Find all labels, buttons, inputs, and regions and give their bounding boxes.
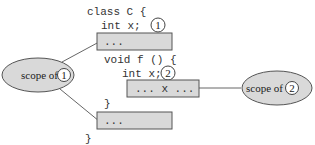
scope-diagram: class C { int x; 1 ... void f () { int x… [0,0,315,145]
marker-1: 1 [151,18,165,32]
code-int-x-2: int x; [122,68,162,80]
scope-marker-2: 2 [289,82,295,94]
scope-label-2: scope of [246,82,283,94]
code-box-1: ... [97,33,172,50]
code-box-3: ... [97,112,172,129]
code-int-x-1: int x; [101,20,141,32]
code-void-f: void f () { [104,54,177,66]
scope-ellipse-2: scope of 2 [242,71,312,105]
code-close-class: } [85,133,92,145]
scope-marker-1: 1 [61,69,67,81]
code-class-decl: class C { [87,6,146,18]
scope-label-1: scope of [21,69,58,81]
connector-scope1-box1 [62,42,99,62]
svg-text:...: ... [104,36,124,48]
svg-text:... x ...: ... x ... [135,83,194,95]
code-box-2: ... x ... [127,80,199,97]
marker-2: 2 [161,66,175,80]
svg-text:1: 1 [155,19,161,31]
svg-text:2: 2 [165,67,171,79]
scope-ellipse-1: scope of 1 [2,58,74,92]
connector-scope1-box3 [60,89,99,121]
code-close-f: } [104,98,111,110]
svg-text:...: ... [104,115,124,127]
